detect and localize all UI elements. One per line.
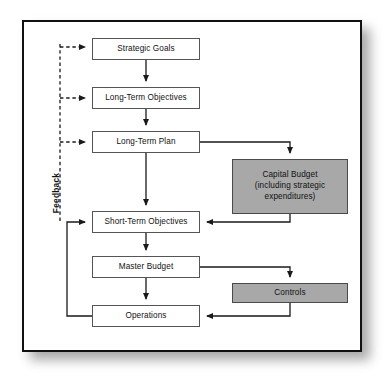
node-label-line-1: Capital Budget [262, 170, 317, 179]
node-long-term-objectives[interactable]: Long-Term Objectives [92, 87, 200, 109]
diagram-stage: Feedback Strategic Goals Long-Term Objec… [0, 0, 383, 374]
edge-controls-to-operations [207, 303, 290, 316]
node-label: Strategic Goals [114, 44, 177, 55]
node-long-term-plan[interactable]: Long-Term Plan [92, 131, 200, 153]
node-label: Operations [122, 311, 169, 322]
edge-master-budget-to-controls [200, 267, 290, 277]
node-label: Short-Term Objectives [101, 217, 190, 228]
edge-capital-budget-to-short-term-objectives [207, 214, 290, 222]
node-controls[interactable]: Controls [232, 283, 348, 303]
edge-long-term-plan-to-capital-budget [200, 142, 290, 153]
node-label: Master Budget [116, 262, 177, 273]
node-label: Long-Term Objectives [102, 93, 190, 104]
node-label-line-2: (including strategic [255, 181, 325, 190]
node-label: Capital Budget (including strategic expe… [252, 170, 328, 202]
node-master-budget[interactable]: Master Budget [92, 256, 200, 278]
node-capital-budget[interactable]: Capital Budget (including strategic expe… [232, 159, 348, 214]
node-label: Long-Term Plan [113, 137, 178, 148]
node-strategic-goals[interactable]: Strategic Goals [92, 38, 200, 60]
feedback-label: Feedback [51, 163, 61, 223]
edge-operations-to-short-term-objectives [67, 222, 92, 316]
node-operations[interactable]: Operations [92, 305, 200, 327]
node-label: Controls [271, 288, 308, 299]
node-short-term-objectives[interactable]: Short-Term Objectives [92, 211, 200, 233]
node-label-line-3: expenditures) [265, 192, 316, 201]
